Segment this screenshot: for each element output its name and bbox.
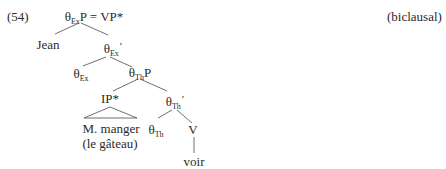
phrase-label: P	[80, 9, 87, 24]
edge-exbar-exhead	[83, 57, 106, 66]
prime-mark: ′	[120, 40, 122, 52]
node-ip: IP*	[101, 92, 119, 105]
node-jean: Jean	[36, 38, 59, 51]
node-root: θExP = VP*	[65, 10, 124, 28]
node-ex-bar: θEx′	[104, 40, 123, 60]
node-ip-content-line2: (le gâteau)	[82, 137, 137, 150]
example-number: (54)	[7, 10, 29, 23]
node-voir: voir	[184, 155, 205, 168]
ip-triangle	[84, 107, 137, 118]
subscript-ex: Ex	[110, 49, 119, 58]
node-ip-content-line1: M. manger	[82, 122, 139, 135]
subscript-ex: Ex	[80, 74, 89, 83]
example-tag: (biclausal)	[387, 10, 442, 23]
equation-rest: = VP*	[87, 9, 124, 24]
node-th-head: θTh	[148, 123, 163, 141]
subscript-th: Th	[172, 102, 181, 111]
node-th-bar: θTh′	[166, 93, 185, 113]
subscript-th: Th	[155, 130, 164, 139]
subscript-th: Th	[135, 73, 144, 82]
node-th-p: θThP	[129, 66, 151, 84]
prime-mark: ′	[182, 93, 184, 105]
phrase-label: P	[144, 65, 151, 80]
node-v: V	[188, 123, 197, 136]
subscript-ex: Ex	[71, 17, 80, 26]
node-ex-head: θEx	[73, 67, 88, 85]
